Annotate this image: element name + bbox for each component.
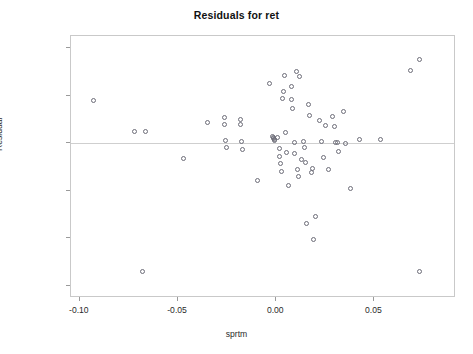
data-point bbox=[309, 170, 314, 175]
data-point bbox=[181, 156, 186, 161]
data-point bbox=[335, 140, 340, 145]
data-point bbox=[91, 98, 96, 103]
data-point bbox=[222, 115, 227, 120]
data-point bbox=[357, 137, 362, 142]
data-point bbox=[282, 73, 287, 78]
residual-scatter-figure: Residuals for ret 0.100.050.00-0.05-0.10… bbox=[0, 0, 473, 354]
data-point bbox=[224, 145, 229, 150]
data-point bbox=[277, 146, 282, 151]
data-point bbox=[286, 183, 291, 188]
chart-title: Residuals for ret bbox=[0, 9, 473, 21]
x-tick-mark bbox=[79, 297, 80, 301]
data-point bbox=[275, 135, 280, 140]
data-point bbox=[296, 174, 301, 179]
data-point bbox=[297, 74, 302, 79]
data-point bbox=[283, 130, 288, 135]
data-point bbox=[295, 167, 300, 172]
data-point bbox=[289, 84, 294, 89]
data-point bbox=[292, 151, 297, 156]
data-point bbox=[321, 155, 326, 160]
data-point bbox=[290, 106, 295, 111]
data-point bbox=[317, 118, 322, 123]
data-point bbox=[348, 186, 353, 191]
data-point bbox=[408, 68, 413, 73]
data-point bbox=[313, 214, 318, 219]
data-point bbox=[417, 57, 422, 62]
data-point bbox=[240, 147, 245, 152]
data-point bbox=[378, 137, 383, 142]
data-point bbox=[341, 109, 346, 114]
plot-area bbox=[70, 35, 455, 297]
y-axis-label: Residual bbox=[0, 118, 4, 151]
data-point bbox=[143, 129, 148, 134]
data-point bbox=[279, 169, 284, 174]
data-point bbox=[277, 154, 282, 159]
data-point bbox=[278, 161, 283, 166]
data-point bbox=[417, 269, 422, 274]
data-point bbox=[343, 141, 348, 146]
x-tick-mark bbox=[177, 297, 178, 301]
zero-reference-line bbox=[71, 143, 454, 144]
data-point bbox=[205, 120, 210, 125]
x-tick-mark bbox=[373, 297, 374, 301]
data-point bbox=[140, 269, 145, 274]
x-tick-label: -0.05 bbox=[157, 305, 197, 315]
data-point bbox=[306, 102, 311, 107]
data-point bbox=[311, 237, 316, 242]
x-tick-label: -0.10 bbox=[59, 305, 99, 315]
data-point bbox=[132, 129, 137, 134]
data-point bbox=[222, 122, 227, 127]
data-point bbox=[292, 140, 297, 145]
data-point bbox=[281, 89, 286, 94]
data-point bbox=[267, 81, 272, 86]
data-point bbox=[289, 97, 294, 102]
data-point bbox=[304, 221, 309, 226]
x-tick-label: 0.05 bbox=[353, 305, 393, 315]
data-point bbox=[255, 178, 260, 183]
data-point bbox=[323, 123, 328, 128]
x-axis-label: sprtm bbox=[0, 329, 473, 339]
data-point bbox=[332, 124, 337, 129]
x-tick-mark bbox=[275, 297, 276, 301]
x-tick-label: 0.00 bbox=[255, 305, 295, 315]
data-point bbox=[280, 96, 285, 101]
data-point bbox=[326, 167, 331, 172]
data-point bbox=[330, 114, 335, 119]
data-point bbox=[238, 122, 243, 127]
data-point bbox=[310, 166, 315, 171]
data-point bbox=[307, 113, 312, 118]
data-point bbox=[284, 150, 289, 155]
data-point bbox=[303, 160, 308, 165]
data-point bbox=[238, 117, 243, 122]
data-point bbox=[302, 145, 307, 150]
data-point bbox=[336, 149, 341, 154]
